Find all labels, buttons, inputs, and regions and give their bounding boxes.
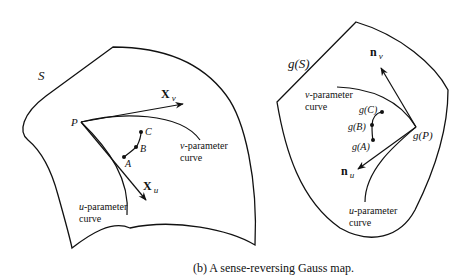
- figure-caption: (b) A sense-reversing Gauss map.: [193, 261, 354, 275]
- point-C-label: C: [145, 126, 152, 137]
- point-gC-dot: [380, 110, 384, 114]
- vector-Xv-arrow: [81, 104, 183, 122]
- point-B-label: B: [140, 143, 146, 154]
- u-parameter-label-left-line2: curve: [79, 213, 102, 224]
- v-parameter-label-left-line2: curve: [180, 152, 203, 163]
- vector-Xu-label: Xu: [143, 179, 159, 195]
- vector-Xu-arrow: [81, 122, 146, 200]
- surface-S-label: S: [38, 68, 45, 83]
- point-gC-label: g(C): [359, 104, 378, 116]
- u-parameter-label-left: u-parameter: [79, 201, 128, 212]
- point-C-dot: [139, 130, 143, 134]
- normal-nu-label: nu: [341, 164, 355, 180]
- v-parameter-label-right-line2: curve: [305, 101, 328, 112]
- u-parameter-label-right: u-parameter: [349, 205, 398, 216]
- point-gB-label: g(B): [348, 121, 366, 133]
- gauss-map-figure: S P Xv Xu A B C v-parameter curve u-para…: [0, 0, 469, 278]
- point-gP-label: g(P): [413, 129, 433, 142]
- point-P-label: P: [70, 116, 78, 128]
- point-gB-dot: [370, 123, 374, 127]
- point-gA-label: g(A): [352, 141, 370, 153]
- vector-Xv-label: Xv: [161, 87, 176, 103]
- point-A-label: A: [124, 158, 132, 169]
- v-parameter-label-right: v-parameter: [305, 89, 353, 100]
- normal-nv-label: nv: [370, 45, 383, 61]
- v-parameter-label-left: v-parameter: [180, 140, 228, 151]
- abc-curve-segment: [124, 132, 141, 157]
- point-B-dot: [134, 145, 138, 149]
- point-gA-dot: [371, 138, 375, 142]
- normal-nv-arrow: [381, 68, 416, 127]
- u-parameter-label-right-line2: curve: [349, 217, 372, 228]
- surface-gS-label: g(S): [288, 56, 310, 71]
